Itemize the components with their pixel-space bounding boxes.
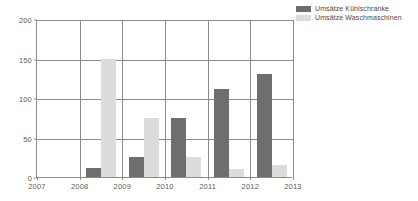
y-axis-tick-label: 150	[19, 55, 32, 64]
x-axis-tick-label: 2011	[199, 182, 216, 191]
legend-item: Umsätze Kühlschranke	[296, 5, 402, 12]
legend-swatch-icon	[296, 15, 311, 21]
gridline-vertical	[122, 20, 123, 178]
y-axis-tick-mark	[34, 59, 37, 60]
bar-2011-series-2	[229, 169, 244, 177]
bar-2008-series-1	[86, 168, 101, 177]
x-axis-tick-label: 2012	[242, 182, 260, 191]
x-axis-tick-label: 2007	[28, 182, 46, 191]
y-axis-tick-label: 200	[19, 16, 32, 25]
legend-item: Umsätze Waschmaschinen	[296, 14, 402, 21]
plot-area: 0501001502002007200820092010201120122013	[36, 20, 292, 178]
chart-legend: Umsätze Kühlschranke Umsätze Waschmaschi…	[296, 5, 402, 21]
y-axis-tick-label: 50	[23, 134, 32, 143]
bar-2009-series-1	[129, 157, 144, 177]
legend-item-label: Umsätze Kühlschranke	[315, 5, 389, 12]
gridline-vertical	[165, 20, 166, 178]
x-axis-tick-label: 2008	[71, 182, 89, 191]
x-axis-tick-label: 2013	[284, 182, 302, 191]
gridline-vertical	[80, 20, 81, 178]
bar-2009-series-2	[144, 118, 159, 177]
x-axis-tick-mark	[293, 177, 294, 180]
x-axis-tick-mark	[122, 177, 123, 180]
bar-chart: 0501001502002007200820092010201120122013…	[0, 0, 418, 201]
bar-2012-series-1	[257, 74, 272, 177]
bar-2010-series-2	[186, 157, 201, 177]
bar-2010-series-1	[171, 118, 186, 177]
x-axis-tick-mark	[80, 177, 81, 180]
x-axis-tick-label: 2009	[114, 182, 132, 191]
y-axis-tick-mark	[34, 20, 37, 21]
gridline-vertical	[208, 20, 209, 178]
x-axis-tick-label: 2010	[156, 182, 174, 191]
x-axis-tick-mark	[37, 177, 38, 180]
x-axis-tick-mark	[208, 177, 209, 180]
bar-2008-series-2	[101, 59, 116, 178]
legend-swatch-icon	[296, 6, 311, 12]
x-axis-tick-mark	[165, 177, 166, 180]
bar-2011-series-1	[214, 89, 229, 177]
y-axis-tick-mark	[34, 138, 37, 139]
x-axis-tick-mark	[250, 177, 251, 180]
bar-2012-series-2	[272, 165, 287, 177]
legend-item-label: Umsätze Waschmaschinen	[315, 14, 402, 21]
y-axis-tick-label: 100	[19, 95, 32, 104]
y-axis-tick-mark	[34, 99, 37, 100]
gridline-vertical	[293, 20, 294, 178]
gridline-vertical	[250, 20, 251, 178]
